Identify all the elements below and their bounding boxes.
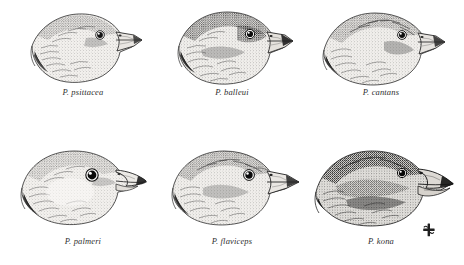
species-caption: P. palmeri xyxy=(8,236,158,246)
specimen-cantans: P. cantans xyxy=(306,2,456,122)
species-caption: P. balleui xyxy=(157,87,307,97)
specimen-palmeri: P. palmeri xyxy=(8,142,158,262)
bird-head-illustration-palmeri xyxy=(8,142,158,234)
specimen-flaviceps: P. flaviceps xyxy=(157,142,307,262)
specimen-bailleui: P. balleui xyxy=(157,2,307,122)
species-caption: P. cantans xyxy=(306,87,456,97)
illustration-plate: P. psittacea xyxy=(0,0,464,265)
bird-head-illustration-bailleui xyxy=(157,2,307,94)
bird-head-illustration-flaviceps xyxy=(157,142,307,234)
specimen-kona: P. kona xyxy=(306,142,456,262)
specimen-psittacea: P. psittacea xyxy=(8,2,158,122)
bird-head-illustration-kona xyxy=(306,142,456,234)
species-caption: P. psittacea xyxy=(8,87,158,97)
artist-monogram xyxy=(421,222,437,238)
bird-head-illustration-cantans xyxy=(306,2,456,94)
species-caption: P. flaviceps xyxy=(157,236,307,246)
bird-head-illustration-psittacea xyxy=(8,2,158,94)
